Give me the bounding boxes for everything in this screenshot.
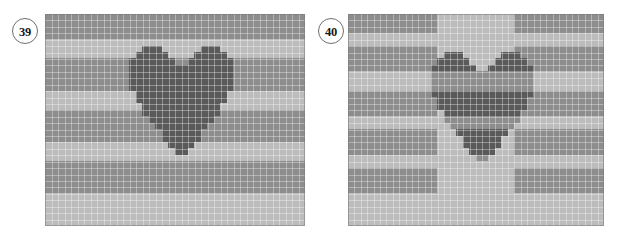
- panel-number-badge-40: 40: [318, 18, 344, 44]
- panel-number-badge-39: 39: [12, 18, 38, 44]
- pattern-panel-40: [348, 14, 604, 226]
- pattern-panel-39: [45, 14, 305, 226]
- figure-root: 39 40: [0, 0, 617, 238]
- pattern-canvas-39: [45, 14, 305, 226]
- pattern-canvas-40: [348, 14, 604, 226]
